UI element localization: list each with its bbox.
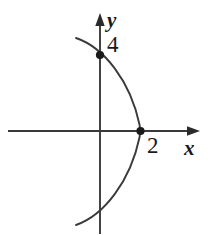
x-axis-arrowhead	[187, 126, 200, 136]
point-y-intercept	[96, 51, 104, 59]
y-intercept-value-label: 4	[107, 33, 119, 56]
y-axis-label: y	[107, 10, 116, 31]
x-axis-label: x	[184, 138, 195, 159]
y-axis-arrowhead	[95, 13, 104, 26]
x-intercept-value-label: 2	[147, 134, 159, 157]
parabola-graph-figure: y x 4 2	[0, 0, 216, 235]
point-vertex	[136, 127, 144, 135]
